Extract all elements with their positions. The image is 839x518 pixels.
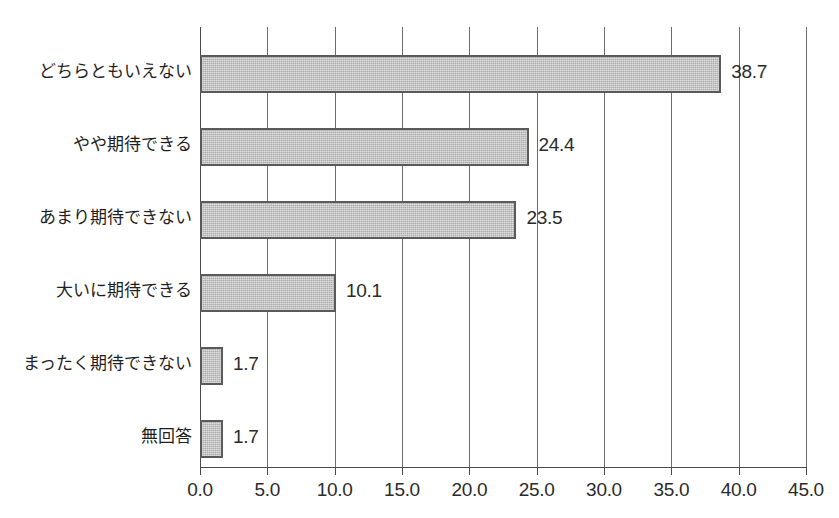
bar-value-label: 24.4 [539, 134, 575, 156]
x-tick-label: 20.0 [451, 479, 487, 501]
x-tick [402, 467, 403, 475]
plot-area: 0.05.010.015.020.025.030.035.040.045.0 3… [200, 27, 806, 467]
x-tick-label: 10.0 [317, 479, 353, 501]
x-tick [537, 467, 538, 475]
gridline [671, 27, 672, 467]
bar [200, 347, 223, 385]
x-tick [335, 467, 336, 475]
gridline [537, 27, 538, 467]
x-tick-label: 35.0 [653, 479, 689, 501]
chart-title [0, 0, 839, 3]
x-tick-label: 40.0 [721, 479, 757, 501]
bar [200, 55, 721, 93]
x-tick [200, 467, 201, 475]
y-axis-line [200, 27, 201, 467]
bar [200, 201, 516, 239]
category-label: 大いに期待できる [6, 276, 198, 301]
bar-value-label: 1.7 [233, 426, 259, 448]
x-tick-label: 5.0 [255, 479, 281, 501]
category-label: あまり期待できない [6, 203, 198, 228]
x-tick-label: 15.0 [384, 479, 420, 501]
bar [200, 274, 336, 312]
gridline [469, 27, 470, 467]
x-tick [604, 467, 605, 475]
x-tick [739, 467, 740, 475]
x-tick [469, 467, 470, 475]
gridline [739, 27, 740, 467]
bar-value-label: 38.7 [731, 61, 767, 83]
gridline [335, 27, 336, 467]
category-label: やや期待できる [6, 130, 198, 155]
gridline [402, 27, 403, 467]
gridline [604, 27, 605, 467]
x-tick-label: 45.0 [788, 479, 824, 501]
category-label: まったく期待できない [6, 349, 198, 374]
chart-page: どちらともいえない やや期待できる あまり期待できない 大いに期待できる まった… [0, 0, 839, 518]
x-tick-label: 30.0 [586, 479, 622, 501]
category-label: どちらともいえない [6, 57, 198, 82]
category-axis-labels: どちらともいえない やや期待できる あまり期待できない 大いに期待できる まった… [0, 27, 198, 467]
category-label: 無回答 [6, 422, 198, 447]
x-tick-label: 0.0 [187, 479, 213, 501]
gridline [267, 27, 268, 467]
x-axis-line [200, 467, 806, 468]
x-tick [806, 467, 807, 475]
bar [200, 420, 223, 458]
bar [200, 128, 529, 166]
bar-value-label: 1.7 [233, 353, 259, 375]
bar-value-label: 23.5 [526, 207, 562, 229]
x-tick [671, 467, 672, 475]
x-tick [267, 467, 268, 475]
x-tick-label: 25.0 [519, 479, 555, 501]
gridline [806, 27, 807, 467]
bar-value-label: 10.1 [346, 280, 382, 302]
